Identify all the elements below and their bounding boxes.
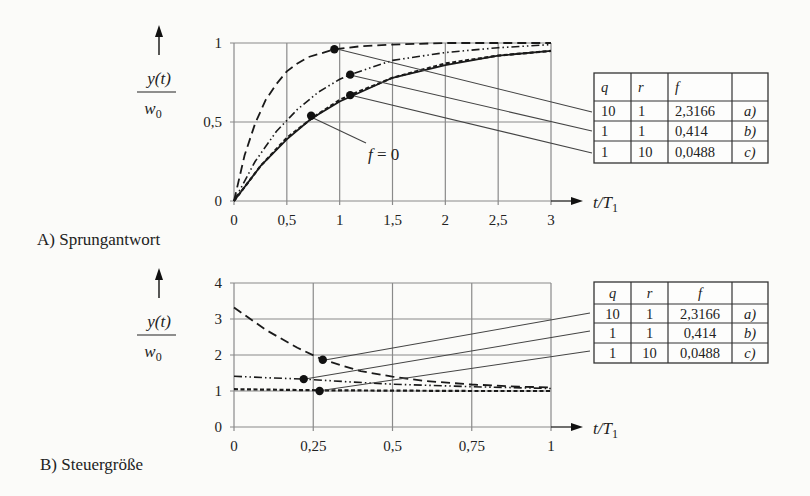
table-cell: 2,3166 — [680, 306, 720, 322]
table-cell: 10 — [638, 144, 653, 160]
x-tick-label: 0 — [230, 438, 238, 454]
data-point-marker — [330, 45, 338, 53]
data-point-marker — [300, 375, 308, 383]
y-tick-label: 1 — [215, 383, 223, 399]
x-tick-label: 2,5 — [489, 212, 508, 228]
chart-panel-B: 00,250,50,75101234t/T1y(t)w0B) Steuergrö… — [40, 268, 768, 474]
y-tick-label: 3 — [215, 311, 223, 327]
table-header-cell: r — [647, 285, 653, 301]
table-cell: 0,414 — [684, 325, 717, 341]
data-point-marker — [315, 387, 323, 395]
y-axis-label-numerator: y(t) — [145, 69, 171, 88]
arrowhead-icon — [155, 268, 163, 280]
y-tick-label: 1 — [215, 35, 223, 51]
arrowhead-icon — [155, 25, 163, 37]
x-tick-label: 0,5 — [383, 438, 402, 454]
table-cell: 10 — [601, 103, 616, 119]
table-cell: 10 — [605, 306, 620, 322]
parameter-table: qrf1012,3166a)110,414b)1100,0488c) — [594, 73, 768, 163]
chart-panel-A: 00,511,522,5300,51t/T1y(t)w0A) Sprungant… — [37, 25, 768, 249]
leader-lines — [305, 313, 590, 391]
y-axis-label-denominator: w0 — [144, 99, 161, 121]
table-header-cell: q — [609, 285, 616, 301]
x-axis-label: t/T1 — [593, 193, 618, 215]
table-header-cell: q — [601, 79, 608, 95]
panel-caption: A) Sprungantwort — [37, 230, 161, 249]
table-header-cell: r — [638, 79, 644, 95]
table-cell: 1 — [601, 123, 608, 139]
gridlines — [230, 43, 551, 205]
table-cell: 0,414 — [675, 123, 708, 139]
table-cell: b) — [744, 123, 756, 140]
table-cell: 1 — [609, 345, 616, 361]
x-tick-label: 0,5 — [277, 212, 296, 228]
table-cell: b) — [744, 325, 756, 342]
table-cell: c) — [744, 144, 755, 161]
y-tick-label: 2 — [215, 347, 223, 363]
x-axis-label: t/T1 — [593, 419, 618, 441]
table-cell: 1 — [601, 144, 608, 160]
parameter-table: qrf1012,3166a)110,414b)1100,0488c) — [594, 282, 768, 363]
figure-canvas: 00,511,522,5300,51t/T1y(t)w0A) Sprungant… — [0, 0, 810, 496]
y-tick-label: 0 — [215, 419, 223, 435]
table-cell: 1 — [638, 123, 645, 139]
data-point-marker — [319, 355, 327, 363]
table-cell: a) — [744, 306, 756, 323]
table-cell: 1 — [646, 306, 653, 322]
table-cell: a) — [744, 103, 756, 120]
table-cell: 0,0488 — [675, 144, 715, 160]
y-tick-label: 0 — [215, 193, 223, 209]
data-point-marker — [307, 111, 315, 119]
x-tick-label: 1 — [336, 212, 344, 228]
x-tick-label: 3 — [547, 212, 555, 228]
arrowhead-icon — [571, 423, 583, 431]
table-cell: 1 — [609, 325, 616, 341]
f-zero-annotation: f = 0 — [368, 145, 399, 164]
y-axis-label-denominator: w0 — [144, 342, 161, 364]
table-cell: 0,0488 — [680, 345, 720, 361]
panel-caption: B) Steuergröße — [40, 455, 143, 474]
y-tick-label: 4 — [215, 275, 223, 291]
x-tick-label: 0,75 — [459, 438, 485, 454]
table-cell: 10 — [642, 345, 657, 361]
y-tick-label: 0,5 — [203, 114, 222, 130]
x-tick-label: 2 — [442, 212, 450, 228]
table-cell: 1 — [638, 103, 645, 119]
data-point-marker — [346, 70, 354, 78]
x-tick-label: 0 — [230, 212, 238, 228]
table-cell: c) — [744, 345, 755, 362]
table-cell: 1 — [646, 325, 653, 341]
x-tick-label: 0,25 — [300, 438, 326, 454]
table-cell: 2,3166 — [675, 103, 715, 119]
arrowhead-icon — [571, 197, 583, 205]
x-tick-label: 1 — [547, 438, 555, 454]
x-tick-label: 1,5 — [383, 212, 402, 228]
gridlines — [230, 283, 551, 431]
data-point-marker — [346, 91, 354, 99]
y-axis-label-numerator: y(t) — [145, 312, 171, 331]
